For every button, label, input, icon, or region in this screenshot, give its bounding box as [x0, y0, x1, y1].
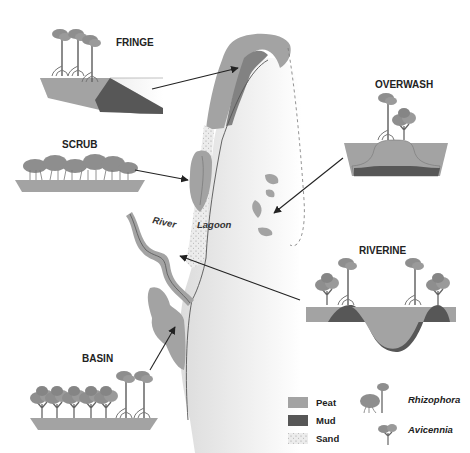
- peat-layer: [15, 180, 145, 192]
- legend-peat-label: Peat: [316, 397, 337, 408]
- rhizophora-tree-icon: [116, 371, 135, 418]
- panel-title: BASIN: [82, 353, 113, 364]
- peat-swatch: [288, 397, 308, 408]
- legend-sand-label: Sand: [316, 433, 339, 444]
- mangrove-diagram: Lagoon River FRINGE SCRUB OVERWASH: [0, 0, 470, 453]
- panel-scrub: SCRUB: [15, 139, 188, 192]
- legend: Peat Mud Sand Rhizophora Avicennia: [288, 383, 460, 445]
- sand-swatch: [288, 433, 308, 444]
- river-label: River: [152, 214, 179, 230]
- legend-avicennia-label: Avicennia: [407, 424, 453, 435]
- rhizophora-tree-icon: [134, 371, 153, 418]
- avicennia-tree-icon: [426, 273, 450, 305]
- rhizophora-legend-icon: [360, 383, 389, 413]
- mud-swatch: [288, 415, 308, 426]
- basin-peat: [148, 287, 186, 370]
- panel-fringe: FRINGE: [40, 29, 238, 114]
- legend-mud-label: Mud: [316, 415, 336, 426]
- avicennia-tree-icon: [392, 108, 416, 140]
- panel-title: RIVERINE: [359, 245, 407, 256]
- panel-title: SCRUB: [62, 139, 98, 150]
- arrow-scrub: [135, 170, 188, 180]
- rhizophora-tree-icon: [405, 258, 424, 305]
- avicennia-legend-icon: [378, 424, 397, 445]
- rhizophora-tree-icon: [338, 258, 357, 305]
- rhizophora-tree-icon: [68, 29, 87, 76]
- panel-title: OVERWASH: [375, 79, 433, 90]
- peat-layer: [30, 418, 158, 430]
- avicennia-tree-icon: [315, 273, 339, 305]
- river-water: [352, 307, 424, 349]
- legend-rhizophora-label: Rhizophora: [408, 394, 460, 405]
- rhizophora-tree-icon: [52, 29, 71, 76]
- mud-layer: [354, 166, 440, 176]
- panel-basin: BASIN: [30, 327, 175, 430]
- lagoon-label: Lagoon: [197, 219, 231, 230]
- panel-title: FRINGE: [116, 37, 154, 48]
- rhizophora-tree-icon: [82, 35, 101, 82]
